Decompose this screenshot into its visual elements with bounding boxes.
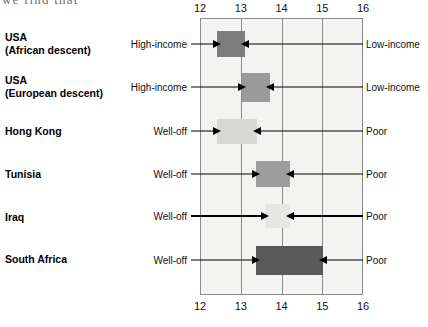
right-arrow-line — [261, 131, 363, 132]
axis-bottom-tick-15: 15 — [310, 300, 334, 312]
axis-top-tick-14: 14 — [270, 2, 294, 14]
left-end-label: Well-off — [134, 255, 187, 266]
axis-bottom-tick-12: 12 — [188, 300, 212, 312]
left-end-label: Well-off — [134, 211, 187, 222]
left-arrow-line — [191, 215, 261, 217]
left-arrow-head — [261, 212, 269, 220]
range-bar — [256, 246, 323, 275]
right-end-label: Poor — [366, 255, 387, 266]
axis-top-tick-13: 13 — [229, 2, 253, 14]
country-label-line1: USA — [5, 31, 135, 44]
axis-top-tick-15: 15 — [310, 2, 334, 14]
left-arrow-line — [191, 131, 213, 132]
right-arrow-head — [266, 83, 274, 91]
right-end-label: Poor — [366, 126, 387, 137]
country-label: USA(European descent) — [5, 74, 135, 99]
clipped-body-text: we find that — [2, 0, 122, 8]
country-label: South Africa — [5, 253, 135, 266]
axis-bottom-tick-16: 16 — [351, 300, 375, 312]
country-label-line2: (European descent) — [5, 87, 135, 100]
left-end-label: High-income — [120, 82, 187, 93]
country-label: Iraq — [5, 211, 135, 224]
axis-bottom-tick-13: 13 — [229, 300, 253, 312]
right-arrow-head — [253, 127, 261, 135]
figure-container: we find that 1213141516 1213141516 USA(A… — [0, 0, 428, 327]
axis-bottom-tick-14: 14 — [270, 300, 294, 312]
left-end-label: Well-off — [134, 169, 187, 180]
right-end-label: Low-income — [366, 39, 420, 50]
axis-top-tick-16: 16 — [351, 2, 375, 14]
right-end-label: Poor — [366, 211, 387, 222]
right-arrow-head — [241, 40, 249, 48]
left-arrow-head — [213, 40, 221, 48]
country-label-line2: (African descent) — [5, 44, 135, 57]
right-end-label: Poor — [366, 169, 387, 180]
country-label-line1: USA — [5, 74, 135, 87]
country-label-line1: Tunisia — [5, 168, 135, 181]
right-arrow-line — [294, 215, 363, 217]
right-arrow-head — [319, 256, 327, 264]
gridline-13 — [241, 19, 242, 294]
left-arrow-head — [238, 83, 246, 91]
right-arrow-line — [274, 87, 363, 88]
country-label-line1: South Africa — [5, 253, 135, 266]
right-end-label: Low-income — [366, 82, 420, 93]
left-arrow-head — [252, 256, 260, 264]
left-arrow-line — [191, 87, 238, 88]
range-bar — [256, 161, 290, 187]
left-arrow-head — [252, 170, 260, 178]
right-arrow-line — [327, 260, 363, 261]
left-arrow-line — [191, 174, 252, 175]
country-label-line1: Iraq — [5, 211, 135, 224]
country-label: USA(African descent) — [5, 31, 135, 56]
range-bar — [217, 119, 257, 144]
right-arrow-head — [286, 212, 294, 220]
right-arrow-line — [249, 44, 363, 45]
country-label: Hong Kong — [5, 125, 135, 138]
left-end-label: Well-off — [134, 126, 187, 137]
left-end-label: High-income — [120, 39, 187, 50]
axis-top-tick-12: 12 — [188, 2, 212, 14]
country-label-line1: Hong Kong — [5, 125, 135, 138]
left-arrow-line — [191, 44, 213, 45]
country-label: Tunisia — [5, 168, 135, 181]
right-arrow-head — [286, 170, 294, 178]
left-arrow-line — [191, 260, 252, 261]
left-arrow-head — [213, 127, 221, 135]
right-arrow-line — [294, 174, 363, 175]
